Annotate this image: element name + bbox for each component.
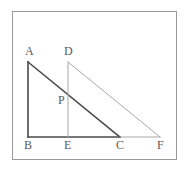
geometry-figure: ADPBECF [0,0,186,172]
vertex-label-p: P [58,94,65,106]
vertex-label-f: F [157,139,164,151]
segment-AC [28,62,120,137]
vertex-label-a: A [25,45,34,57]
segment-layer [28,62,160,137]
vertex-label-c: C [116,139,124,151]
segment-DF [68,62,160,137]
vertex-label-b: B [24,139,32,151]
vertex-label-d: D [64,45,73,57]
vertex-label-e: E [64,139,71,151]
